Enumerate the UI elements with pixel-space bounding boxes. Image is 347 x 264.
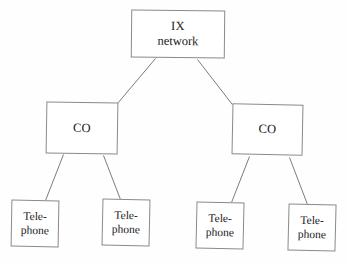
node-telephone-3: Tele- phone (195, 201, 244, 249)
edge-co-right-to-telephone-3 (232, 157, 250, 203)
node-telephone-4: Tele- phone (287, 203, 336, 251)
edge-co-left-to-telephone-1 (46, 155, 64, 201)
node-telephone-1: Tele- phone (11, 200, 60, 248)
node-telephone-3-label-line-2: phone (206, 225, 234, 239)
node-co-left-label: CO (73, 120, 91, 135)
node-telephone-4-label-line-2: phone (298, 227, 326, 241)
edge-ix-network-to-co-right (198, 60, 234, 107)
node-co-right: CO (232, 103, 304, 155)
node-telephone-2-label-line-1: Tele- (114, 209, 138, 223)
edge-co-right-to-telephone-4 (290, 158, 308, 205)
node-telephone-2-label-line-2: phone (112, 222, 140, 236)
node-co-right-label: CO (258, 122, 276, 137)
node-telephone-2: Tele- phone (102, 199, 151, 247)
node-ix-network: IX network (131, 10, 225, 59)
node-co-left: CO (46, 101, 119, 154)
network-hierarchy-diagram: IX network CO CO Tele- phone Tele- phone… (0, 0, 347, 264)
node-telephone-1-label-line-1: Tele- (23, 210, 47, 224)
edge-ix-network-to-co-left (118, 59, 156, 104)
node-telephone-3-label-line-1: Tele- (208, 212, 232, 226)
node-ix-network-label-line-1: IX (171, 19, 185, 34)
node-telephone-1-label-line-2: phone (21, 223, 49, 237)
edge-co-left-to-telephone-2 (104, 156, 121, 200)
node-telephone-4-label-line-1: Tele- (300, 214, 324, 228)
node-ix-network-label-line-2: network (157, 34, 198, 49)
